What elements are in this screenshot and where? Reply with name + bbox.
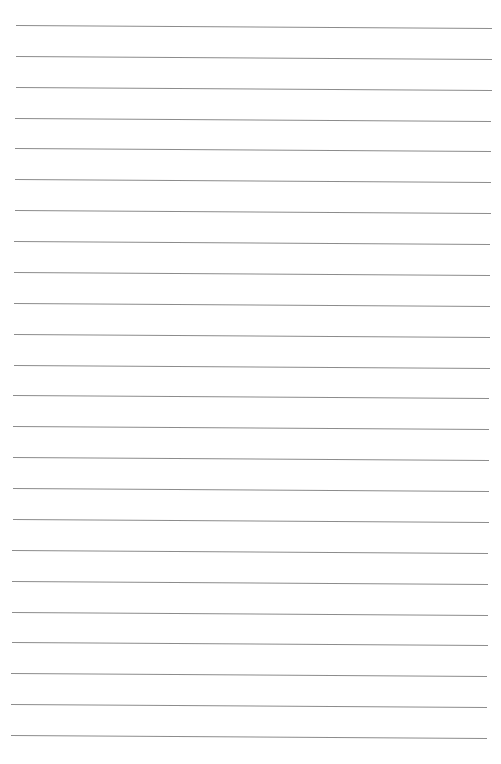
- ruled-line: [11, 735, 487, 739]
- ruled-line: [12, 612, 488, 616]
- ruled-line: [16, 87, 492, 91]
- ruled-line: [15, 179, 491, 183]
- ruled-line: [12, 581, 488, 585]
- ruled-line: [11, 704, 487, 708]
- ruled-line: [14, 241, 490, 245]
- ruled-line: [13, 519, 489, 523]
- ruled-line: [13, 395, 489, 399]
- ruled-line: [14, 272, 490, 276]
- ruled-line: [14, 365, 490, 369]
- ruled-line: [14, 303, 490, 307]
- ruled-line: [13, 457, 489, 461]
- ruled-line: [15, 118, 491, 122]
- ruled-line: [16, 56, 492, 60]
- ruled-line: [13, 426, 489, 430]
- ruled-line: [16, 25, 492, 29]
- ruled-line: [14, 334, 490, 338]
- ruled-line: [15, 148, 491, 152]
- ruled-line: [13, 488, 489, 492]
- ruled-line: [12, 550, 488, 554]
- ruled-line: [15, 210, 491, 214]
- ruled-line: [12, 642, 488, 646]
- lined-paper-page: [0, 0, 501, 764]
- ruled-line: [11, 673, 487, 677]
